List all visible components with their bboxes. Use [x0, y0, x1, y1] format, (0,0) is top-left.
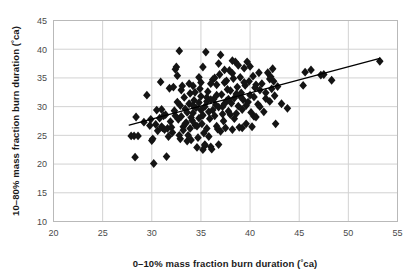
- svg-text:25: 25: [98, 228, 108, 238]
- chart-canvas: 2025303540455055 1015202530354045 0–10% …: [0, 0, 417, 280]
- svg-text:15: 15: [37, 188, 47, 198]
- x-axis-title: 0–10% mass fraction burn duration (°ca): [133, 258, 318, 269]
- svg-text:50: 50: [343, 228, 353, 238]
- svg-text:30: 30: [147, 228, 157, 238]
- svg-text:40: 40: [37, 45, 47, 55]
- svg-text:40: 40: [245, 228, 255, 238]
- svg-text:25: 25: [37, 131, 47, 141]
- svg-text:30: 30: [37, 102, 47, 112]
- svg-text:20: 20: [48, 228, 58, 238]
- svg-text:45: 45: [294, 228, 304, 238]
- y-axis-title: 10–80% mass fraction burn duration (°ca): [10, 26, 21, 216]
- svg-text:35: 35: [196, 228, 206, 238]
- scatter-chart: 2025303540455055 1015202530354045 0–10% …: [0, 0, 417, 280]
- svg-text:20: 20: [37, 159, 47, 169]
- svg-text:45: 45: [37, 16, 47, 26]
- svg-text:35: 35: [37, 73, 47, 83]
- svg-text:10: 10: [37, 217, 47, 227]
- svg-text:55: 55: [392, 228, 402, 238]
